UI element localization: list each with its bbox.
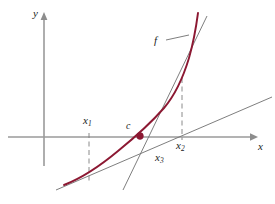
x3-label: x3 [155, 152, 164, 165]
figure-canvas [0, 0, 275, 204]
x-axis-label: x [258, 141, 263, 152]
x2-label-subscript: 2 [181, 144, 185, 153]
y-axis-arrowhead [41, 12, 48, 20]
y-axis-label: y [33, 8, 38, 19]
x1-label: x1 [83, 115, 92, 128]
y-axis [41, 12, 48, 166]
math-figure: y x f c x1 x2 x3 [0, 0, 275, 204]
tangent-line [123, 16, 207, 190]
x3-label-subscript: 3 [160, 156, 164, 165]
point-c-marker [137, 133, 144, 140]
function-curve-f [64, 13, 198, 185]
x-axis [8, 133, 258, 141]
x2-label: x2 [176, 140, 185, 153]
f-leader-line [166, 35, 189, 40]
secant-line [56, 97, 272, 190]
function-label-f: f [154, 35, 157, 46]
x1-label-subscript: 1 [88, 119, 92, 128]
x-axis-arrowhead [250, 133, 258, 141]
point-label-c: c [126, 121, 130, 131]
